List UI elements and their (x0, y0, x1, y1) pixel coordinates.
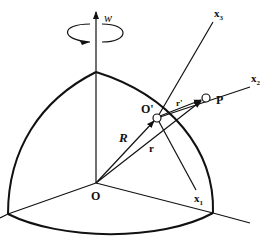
moving-origin-point (153, 114, 161, 122)
label-x2: x2 (251, 72, 261, 87)
rotation-arrow-icon (68, 24, 124, 45)
x2-axis (157, 87, 250, 118)
label-R: R (118, 130, 128, 145)
label-r: r (149, 142, 154, 154)
point-P (202, 94, 210, 102)
x1-axis (157, 118, 196, 190)
label-r-prime: r' (176, 98, 183, 108)
label-origin: O (91, 189, 100, 203)
label-omega: w (104, 11, 112, 25)
label-P: P (216, 93, 223, 107)
diagram-canvas: w x3 x2 x1 O O' P R r r' (0, 0, 274, 238)
x3-axis (157, 22, 213, 118)
local-axes (157, 22, 250, 190)
label-x1: x1 (194, 192, 204, 207)
label-moving-origin: O' (141, 102, 154, 116)
label-x3: x3 (214, 7, 224, 22)
sphere-octant (0, 72, 250, 234)
